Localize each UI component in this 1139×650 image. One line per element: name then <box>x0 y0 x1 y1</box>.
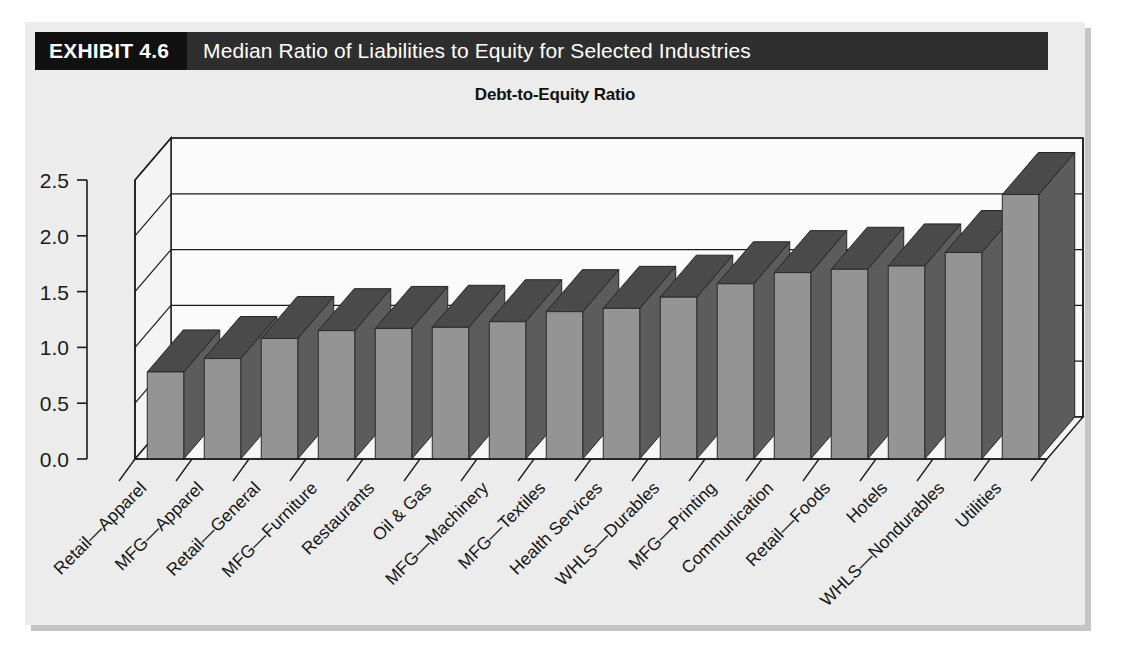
x-category-label: MFG—Machinery <box>381 478 492 589</box>
exhibit-badge: EXHIBIT 4.6 <box>35 32 187 70</box>
y-tick-label: 1.0 <box>40 336 69 359</box>
exhibit-frame: EXHIBIT 4.6 Median Ratio of Liabilities … <box>25 22 1085 625</box>
y-tick-label: 2.5 <box>40 169 69 192</box>
x-category-label: WHLS—Durables <box>552 478 664 590</box>
chart-area: Debt-to-Equity Ratio 0.00.51.01.52.02.5 … <box>25 70 1085 625</box>
exhibit-header: EXHIBIT 4.6 Median Ratio of Liabilities … <box>35 32 1048 70</box>
y-axis-ticks: 0.00.51.01.52.02.5 <box>40 169 87 471</box>
y-tick-label: 1.5 <box>40 281 69 304</box>
exhibit-panel: EXHIBIT 4.6 Median Ratio of Liabilities … <box>25 22 1085 625</box>
x-category-label: Hotels <box>842 478 891 527</box>
x-axis-labels: Retail—ApparelMFG—ApparelRetail—GeneralM… <box>50 478 1006 611</box>
x-category-label: Utilities <box>951 478 1005 532</box>
exhibit-title: Median Ratio of Liabilities to Equity fo… <box>187 39 751 63</box>
y-tick-label: 2.0 <box>40 225 69 248</box>
y-tick-label: 0.0 <box>40 448 69 471</box>
y-tick-label: 0.5 <box>40 392 69 415</box>
bar <box>1002 153 1074 459</box>
x-axis-ticks <box>119 459 1047 481</box>
bar-chart-plot: 0.00.51.01.52.02.5 Retail—ApparelMFG—App… <box>25 70 1085 625</box>
